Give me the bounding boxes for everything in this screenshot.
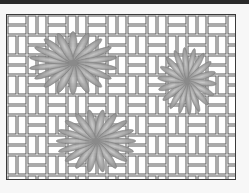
top-border-bar [0,0,249,4]
weave-pattern-frame [6,14,236,180]
weave-pattern [7,15,235,179]
